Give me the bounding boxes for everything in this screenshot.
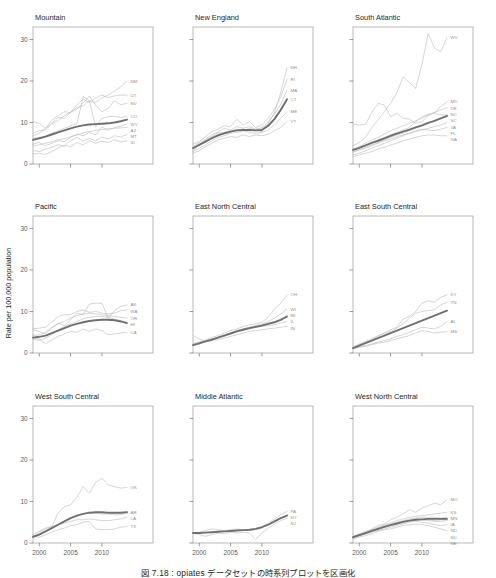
series-end-label: AR xyxy=(131,510,137,515)
x-tick-label: 2005 xyxy=(383,549,398,556)
y-tick-label: 30 xyxy=(20,225,28,232)
series-end-label: TX xyxy=(131,524,137,529)
series-end-label: NM xyxy=(131,79,138,84)
series-end-label: MS xyxy=(451,329,458,334)
series-end-label: LA xyxy=(131,516,136,521)
series-end-label: AL xyxy=(451,319,457,324)
series-end-label: SD xyxy=(451,535,457,540)
series-end-label: VA xyxy=(451,125,457,130)
series-end-label: AZ xyxy=(131,128,137,133)
figure-caption: 図 7.18 : opiates データセットの時系列プロットを区画化 xyxy=(0,566,496,578)
series-end-label: NH xyxy=(291,65,297,70)
y-tick-label: 10 xyxy=(20,308,28,315)
panel-title: East South Central xyxy=(355,202,417,211)
x-tick-label: 2000 xyxy=(352,549,367,556)
series-end-label: KS xyxy=(451,510,457,515)
series-end-label: MN xyxy=(451,516,458,521)
y-tick-label: 10 xyxy=(20,119,28,126)
figure-background xyxy=(0,0,496,578)
y-tick-label: 10 xyxy=(20,498,28,505)
x-tick-label: 2000 xyxy=(32,549,47,556)
series-end-label: NC xyxy=(451,112,457,117)
series-end-label: KY xyxy=(451,292,457,297)
x-tick-label: 2010 xyxy=(255,549,270,556)
series-end-label: MA xyxy=(291,88,298,93)
series-end-label: NE xyxy=(451,541,457,546)
panel-title: Middle Atlantic xyxy=(195,392,243,401)
y-axis-title: Rate per 100,000 population xyxy=(4,248,13,339)
x-tick-label: 2005 xyxy=(63,549,78,556)
series-end-label: HI xyxy=(131,322,135,327)
series-end-label: IL xyxy=(291,319,295,324)
panel-title: West North Central xyxy=(355,392,418,401)
y-tick-label: 30 xyxy=(20,415,28,422)
series-end-label: OR xyxy=(131,316,138,321)
series-end-label: ND xyxy=(451,528,457,533)
series-end-label: VT xyxy=(291,119,297,124)
y-tick-label: 0 xyxy=(24,349,28,356)
series-end-label: NV xyxy=(131,101,137,106)
panel-title: South Atlantic xyxy=(355,13,400,22)
series-end-label: NY xyxy=(291,515,297,520)
y-tick-label: 0 xyxy=(24,539,28,546)
series-end-label: RI xyxy=(291,77,295,82)
panel-title: New England xyxy=(195,13,239,22)
series-end-label: ID xyxy=(131,140,135,145)
series-end-label: WA xyxy=(131,309,138,314)
series-end-label: FL xyxy=(451,131,457,136)
panel-title: East North Central xyxy=(195,202,256,211)
y-tick-label: 30 xyxy=(20,36,28,43)
x-tick-label: 2010 xyxy=(415,549,430,556)
series-end-label: TN xyxy=(451,300,457,305)
series-end-label: CO xyxy=(131,114,138,119)
series-end-label: MO xyxy=(451,497,459,502)
series-end-label: SC xyxy=(451,118,457,123)
series-end-label: AK xyxy=(131,302,137,307)
series-end-label: WI xyxy=(291,307,296,312)
series-end-label: MI xyxy=(291,313,296,318)
series-end-label: NJ xyxy=(291,521,296,526)
y-tick-label: 20 xyxy=(20,77,28,84)
series-end-label: WY xyxy=(131,122,138,127)
y-tick-label: 20 xyxy=(20,456,28,463)
series-end-label: IA xyxy=(451,522,455,527)
series-end-label: MD xyxy=(451,99,458,104)
series-end-label: DE xyxy=(451,106,457,111)
series-end-label: CT xyxy=(291,97,297,102)
series-end-label: GA xyxy=(451,137,457,142)
series-end-label: WV xyxy=(451,35,458,40)
series-end-label: CA xyxy=(131,330,137,335)
series-end-label: MT xyxy=(131,134,138,139)
series-end-label: OK xyxy=(131,485,137,490)
x-tick-label: 2005 xyxy=(223,549,238,556)
y-tick-label: 0 xyxy=(24,160,28,167)
series-end-label: PA xyxy=(291,509,297,514)
series-end-label: IN xyxy=(291,326,295,331)
panel-title: Mountain xyxy=(35,13,65,22)
figure-small-multiples: Mountain0102030NMUTNVCOWYAZMTIDNew Engla… xyxy=(0,0,496,578)
series-end-label: OH xyxy=(291,292,298,297)
panel-title: West South Central xyxy=(35,392,99,401)
series-end-label: ME xyxy=(291,109,298,114)
panel-title: Pacific xyxy=(35,202,57,211)
x-tick-label: 2000 xyxy=(192,549,207,556)
y-tick-label: 20 xyxy=(20,266,28,273)
x-tick-label: 2010 xyxy=(95,549,110,556)
series-end-label: UT xyxy=(131,93,137,98)
